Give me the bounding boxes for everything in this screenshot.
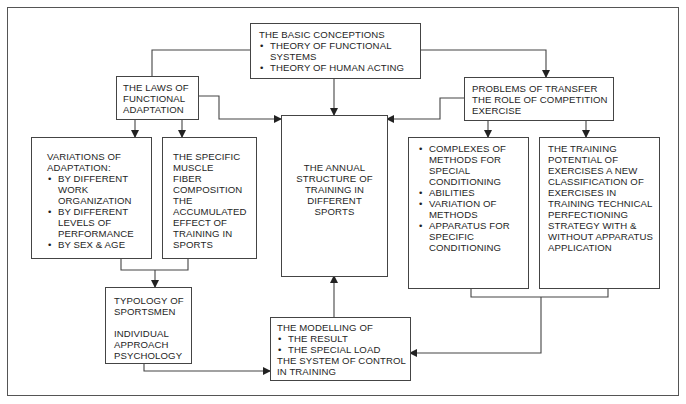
text-line: THE [173, 195, 250, 206]
text-line: COMPOSITION [173, 184, 250, 195]
bullet-item: COMPLEXES OF METHODS FOR SPECIAL CONDITI… [418, 143, 522, 187]
text-line: STRUCTURE OF [296, 173, 372, 184]
text-line: APPLICATION [548, 242, 653, 253]
text-line: WITHOUT APPARATUS [548, 231, 653, 242]
text-line: SPORTSMEN [114, 306, 185, 317]
connector-basic-to-problems [420, 50, 546, 77]
connector-problems-to-annual [387, 98, 464, 119]
connector-typology-to-modelling [144, 363, 270, 371]
text-line: IN TRAINING [277, 366, 404, 377]
connector-variations-muscle-join [121, 258, 188, 270]
text-line: THE ANNUAL [296, 162, 372, 173]
text-line: TYPOLOGY OF [114, 295, 185, 306]
text-line: SPORTS [173, 239, 250, 250]
text-line: FUNCTIONAL [123, 93, 192, 104]
bullet-item: APPARATUS FOR SPECIFIC CONDITIONING [418, 220, 522, 253]
text-line: APPROACH [114, 339, 185, 350]
text-line: TRAINING TECHNICAL [548, 198, 653, 209]
text-line: ADAPTATION: [47, 162, 141, 173]
box-title: THE MODELLING OF [277, 322, 404, 333]
box-annual-structure: THE ANNUAL STRUCTURE OF TRAINING IN DIFF… [281, 115, 388, 277]
bullet-item: THE SPECIAL LOAD [277, 344, 404, 355]
text-line: PSYCHOLOGY [114, 350, 185, 361]
box-basic-conceptions: THE BASIC CONCEPTIONS THEORY OF FUNCTION… [250, 23, 421, 79]
bullet-item: BY DIFFERENT LEVELS OF PERFORMANCE [47, 206, 141, 239]
text-line: TRAINING IN [296, 184, 372, 195]
text-line: INDIVIDUAL [114, 328, 185, 339]
box-typology-of-sportsmen: TYPOLOGY OF SPORTSMEN INDIVIDUAL APPROAC… [105, 287, 192, 364]
box-title: THE BASIC CONCEPTIONS [259, 29, 412, 40]
text-line: EXERCISE [472, 105, 606, 116]
connector-basic-to-laws [152, 50, 250, 76]
bullet-item: BY DIFFERENT WORK ORGANIZATION [47, 173, 141, 206]
bullet-item: THE RESULT [277, 333, 404, 344]
box-laws-functional-adaptation: THE LAWS OF FUNCTIONAL ADAPTATION [116, 76, 199, 120]
text-line: FIBER [173, 173, 250, 184]
text-line: MUSCLE [173, 162, 250, 173]
text-line: ACCUMULATED [173, 206, 250, 217]
text-line: THE ROLE OF COMPETITION [472, 94, 606, 105]
text-line: PERFECTIONING [548, 209, 653, 220]
box-modelling: THE MODELLING OF THE RESULT THE SPECIAL … [270, 317, 411, 381]
text-line: EFFECT OF [173, 217, 250, 228]
text-line: CLASSIFICATION OF [548, 176, 653, 187]
bullet-item: THEORY OF FUNCTIONALSYSTEMS [259, 40, 412, 62]
text-line: DIFFERENT [296, 195, 372, 206]
bullet-item: ABILITIES [418, 187, 522, 198]
text-line: EXERCISES A NEW [548, 165, 653, 176]
spacer [114, 317, 185, 328]
text-line: POTENTIAL OF [548, 154, 653, 165]
text-line: STRATEGY WITH & [548, 220, 653, 231]
text-line: THE SYSTEM OF CONTROL [277, 355, 404, 366]
text-line: VARIATIONS OF [47, 151, 141, 162]
bullet-item: BY SEX & AGE [47, 239, 141, 250]
text-line: THE TRAINING [548, 143, 653, 154]
text-line: THE SPECIFIC [173, 151, 250, 162]
text-line: EXERCISES IN [548, 187, 653, 198]
box-problems-of-transfer: PROBLEMS OF TRANSFER THE ROLE OF COMPETI… [464, 77, 614, 121]
connector-laws-to-annual [198, 96, 281, 119]
bullet-item: THEORY OF HUMAN ACTING [259, 62, 412, 73]
box-variations-of-adaptation: VARIATIONS OF ADAPTATION: BY DIFFERENT W… [31, 137, 152, 259]
connector-complexes-potential-join [471, 288, 608, 297]
box-training-potential: THE TRAINING POTENTIAL OF EXERCISES A NE… [539, 137, 660, 289]
connector-join-to-modelling [410, 297, 541, 353]
text-line: SPORTS [296, 206, 372, 217]
text-line: PROBLEMS OF TRANSFER [472, 83, 606, 94]
bullet-item: VARIATION OF METHODS [418, 198, 522, 220]
text-line: THE LAWS OF [123, 82, 192, 93]
text-line: TRAINING IN [173, 228, 250, 239]
box-complexes-of-methods: COMPLEXES OF METHODS FOR SPECIAL CONDITI… [408, 137, 529, 289]
text-line: ADAPTATION [123, 104, 192, 115]
box-specific-muscle-fiber: THE SPECIFIC MUSCLE FIBER COMPOSITION TH… [162, 137, 257, 259]
